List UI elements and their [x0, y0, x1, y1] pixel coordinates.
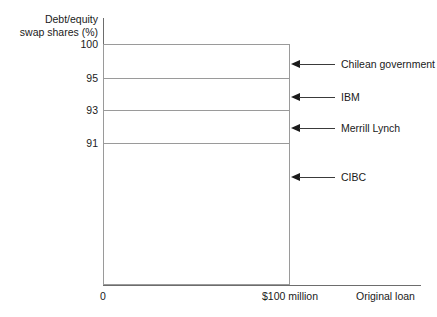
y-tick-label-93: 93	[38, 104, 98, 116]
annotation-merrill-lynch: Merrill Lynch	[291, 121, 400, 135]
x-tick-label-100-million: $100 million	[262, 290, 318, 302]
annotation-cibc: CIBC	[291, 170, 366, 184]
arrow-left-icon	[291, 92, 335, 102]
y-tick-label-100: 100	[38, 38, 98, 50]
x-axis-label: Original loan	[356, 290, 415, 302]
arrow-left-icon	[291, 59, 335, 69]
gridline-95	[103, 78, 290, 79]
annotation-label-merrill-lynch: Merrill Lynch	[341, 122, 400, 134]
annotation-chilean-government: Chilean government	[291, 57, 435, 71]
plot-area-frame	[103, 44, 290, 285]
annotation-label-chilean-government: Chilean government	[341, 58, 435, 70]
y-tick-label-95: 95	[38, 72, 98, 84]
gridline-91	[103, 143, 290, 144]
x-axis-line	[103, 285, 421, 286]
y-axis-title: Debt/equity swap shares (%)	[0, 13, 98, 38]
annotation-label-cibc: CIBC	[341, 171, 366, 183]
annotation-label-ibm: IBM	[341, 91, 360, 103]
y-tick-label-91: 91	[38, 137, 98, 149]
arrow-left-icon	[291, 172, 335, 182]
arrow-left-icon	[291, 123, 335, 133]
gridline-93	[103, 110, 290, 111]
annotation-ibm: IBM	[291, 90, 360, 104]
x-tick-label-zero: 0	[100, 290, 106, 302]
chart-canvas: Debt/equity swap shares (%) 100 95 93 91…	[0, 0, 437, 317]
